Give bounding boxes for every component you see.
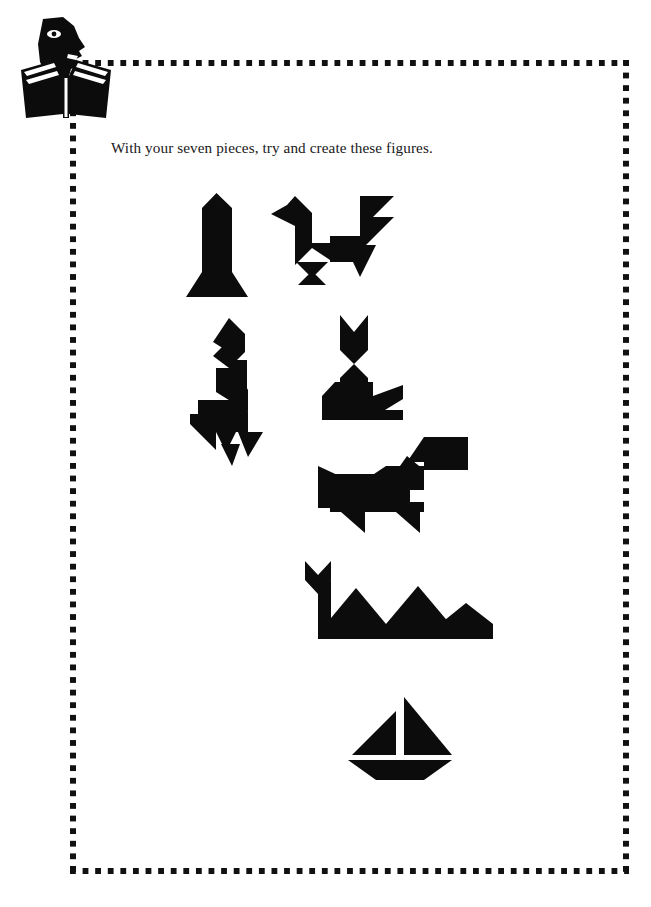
figure-obelisk xyxy=(186,193,248,297)
border-bottom xyxy=(70,868,629,874)
border-left xyxy=(70,60,76,874)
figure-bird xyxy=(190,318,263,466)
worksheet-page: With your seven pieces, try and create t… xyxy=(0,0,651,907)
figure-rooster xyxy=(271,196,394,285)
border-top xyxy=(70,60,629,66)
instruction-text: With your seven pieces, try and create t… xyxy=(111,137,581,158)
reader-book-logo xyxy=(16,14,116,126)
border-right xyxy=(623,60,629,874)
figure-crocodile xyxy=(305,561,493,639)
figure-dog xyxy=(318,437,468,533)
figure-cat xyxy=(322,315,403,420)
figure-sailboat xyxy=(348,697,452,780)
